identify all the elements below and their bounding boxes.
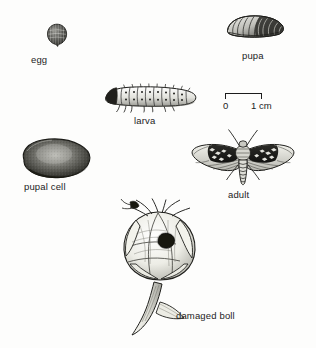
pupal-cell-label: pupal cell [24,182,66,192]
scale-max-label: 1 cm [251,101,272,111]
damaged-boll-label: damaged boll [176,311,235,321]
adult-moth-illustration [188,127,298,189]
pupa-illustration [224,13,286,43]
egg-label: egg [31,55,47,65]
scale-bar: 0 1 cm [225,93,262,113]
pupa-label: pupa [242,51,264,61]
scale-bar-line [225,93,262,94]
adult-label: adult [228,190,249,200]
larva-label: larva [134,116,155,126]
pupal-cell-illustration [18,136,94,184]
egg-illustration [44,22,70,48]
life-cycle-figure: egg [0,0,316,348]
scale-tick-start [225,93,226,99]
scale-tick-end [261,93,262,99]
scale-zero-label: 0 [223,101,228,111]
larva-illustration [98,83,202,115]
